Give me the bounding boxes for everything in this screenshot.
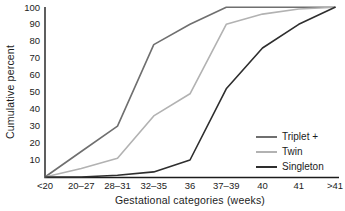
- x-tick-label: 28–31: [104, 180, 130, 191]
- legend-line-swatch-twin: [256, 151, 277, 153]
- line-chart-canvas: 102030405060708090100<2020–2728–3132–353…: [0, 0, 345, 211]
- legend-item-triplet: Triplet +: [256, 129, 324, 144]
- legend-line-swatch-triplet: [256, 136, 277, 138]
- x-tick-label: 32–35: [141, 180, 167, 191]
- y-tick-label: 100: [24, 2, 40, 13]
- y-tick-label: 20: [29, 137, 40, 148]
- legend-label-singleton: Singleton: [282, 161, 324, 172]
- legend-line-swatch-singleton: [256, 166, 277, 168]
- x-tick-label: 40: [257, 180, 268, 191]
- x-tick-label: >41: [327, 180, 343, 191]
- y-axis-title: Cumulative percent: [4, 7, 20, 177]
- x-tick-label: 20–27: [68, 180, 94, 191]
- y-tick-label: 90: [29, 18, 40, 29]
- legend-label-triplet: Triplet +: [282, 131, 318, 142]
- y-tick-label: 40: [29, 103, 40, 114]
- legend: Triplet + Twin Singleton: [256, 129, 324, 174]
- y-tick-label: 50: [29, 86, 40, 97]
- x-axis-title: Gestational categories (weeks): [45, 194, 335, 206]
- y-tick-label: 80: [29, 35, 40, 46]
- y-tick-label: 10: [29, 154, 40, 165]
- y-tick-label: 70: [29, 52, 40, 63]
- y-tick-label: 30: [29, 120, 40, 131]
- legend-label-twin: Twin: [282, 146, 303, 157]
- x-tick-label: 37–39: [213, 180, 239, 191]
- x-tick-label: <20: [37, 180, 53, 191]
- y-tick-label: 60: [29, 69, 40, 80]
- legend-item-singleton: Singleton: [256, 159, 324, 174]
- x-tick-label: 41: [293, 180, 304, 191]
- legend-item-twin: Twin: [256, 144, 324, 159]
- x-tick-label: 36: [185, 180, 196, 191]
- cumulative-percent-chart: 102030405060708090100<2020–2728–3132–353…: [0, 0, 345, 211]
